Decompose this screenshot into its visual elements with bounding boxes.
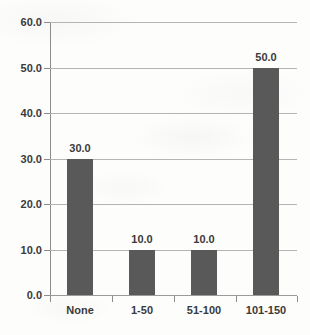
- x-axis-label-51-100: 51-100: [187, 304, 221, 316]
- y-tick-label-10: 10.0: [2, 244, 42, 256]
- x-axis-tick-0: [50, 296, 51, 302]
- bar-51-100: [191, 250, 217, 296]
- y-tick-label-60: 60.0: [2, 16, 42, 28]
- bar-chart: 60.0 50.0 40.0 30.0 20.0 10.0 0.0 30.0 1…: [0, 0, 310, 335]
- bar-value-label-none: 30.0: [69, 142, 90, 154]
- y-tick-label-40: 40.0: [2, 107, 42, 119]
- x-axis-tick-4: [297, 296, 298, 302]
- bar-value-label-101-150: 50.0: [255, 51, 276, 63]
- x-axis-tick-3: [236, 296, 237, 302]
- x-axis-tick-2: [174, 296, 175, 302]
- x-axis-label-101-150: 101-150: [246, 304, 286, 316]
- y-tick-label-30: 30.0: [2, 153, 42, 165]
- y-axis-labels: 60.0 50.0 40.0 30.0 20.0 10.0 0.0: [0, 0, 42, 335]
- y-tick-label-50: 50.0: [2, 62, 42, 74]
- bar-none: [67, 159, 93, 296]
- x-axis-label-none: None: [66, 304, 94, 316]
- bar-101-150: [253, 68, 279, 296]
- x-axis-tick-1: [112, 296, 113, 302]
- bar-value-label-1-50: 10.0: [131, 233, 152, 245]
- bar-1-50: [129, 250, 155, 296]
- y-tick-label-0: 0.0: [2, 289, 42, 301]
- bar-value-label-51-100: 10.0: [193, 233, 214, 245]
- y-tick-label-20: 20.0: [2, 198, 42, 210]
- gridline-60: [50, 22, 297, 23]
- x-axis-label-1-50: 1-50: [131, 304, 153, 316]
